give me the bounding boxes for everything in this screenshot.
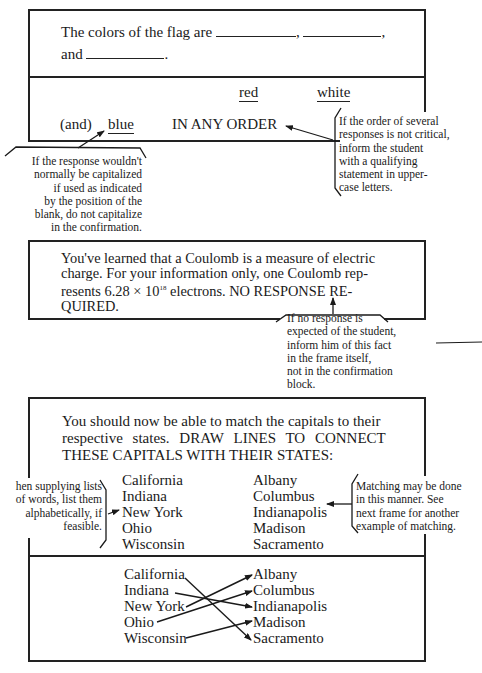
note-no-response: If no response is expected of the studen…: [287, 312, 422, 392]
answer-state-item: Indiana: [124, 582, 187, 598]
answer-capitals-list: Albany Columbus Indianapolis Madison Sac…: [253, 566, 327, 646]
note-capitalization: If the response wouldn't normally be cap…: [6, 155, 142, 235]
answer-capital-item: Columbus: [253, 582, 327, 598]
states-list: California Indiana New York Ohio Wiscons…: [122, 472, 185, 552]
qualifier-in-any-order: IN ANY ORDER: [172, 116, 277, 133]
answer-state-item: Wisconsin: [124, 630, 187, 646]
capital-item: Sacramento: [253, 536, 327, 552]
answer-blank-2[interactable]: [303, 35, 381, 37]
capitals-list: Albany Columbus Indianapolis Madison Sac…: [253, 472, 327, 552]
state-item: California: [122, 472, 185, 488]
capital-item: Columbus: [253, 488, 327, 504]
answer-red: red: [239, 84, 258, 101]
frame3-text: You should now be able to match the capi…: [62, 413, 394, 464]
state-item: Indiana: [122, 488, 185, 504]
answer-capital-item: Albany: [253, 566, 327, 582]
answer-blue: blue: [108, 116, 134, 133]
frame1-question-line2: and .: [61, 46, 168, 63]
capital-item: Albany: [253, 472, 327, 488]
answer-capital-item: Indianapolis: [253, 598, 327, 614]
state-item: Ohio: [122, 520, 185, 536]
answer-states-list: California Indiana New York Ohio Wiscons…: [124, 566, 187, 646]
capital-item: Indianapolis: [253, 504, 327, 520]
answer-and-prefix: (and): [60, 116, 92, 133]
answer-capital-item: Sacramento: [253, 630, 327, 646]
answer-state-item: California: [124, 566, 187, 582]
state-item: Wisconsin: [122, 536, 185, 552]
capital-item: Madison: [253, 520, 327, 536]
frame1-divider: [28, 76, 426, 78]
note-alphabetical: hen supplying lists of words, list them …: [0, 480, 102, 533]
question-text: The colors of the flag are: [61, 24, 212, 40]
answer-blank-3[interactable]: [86, 57, 164, 59]
state-item: New York: [122, 504, 185, 520]
frame2-text: You've learned that a Coulomb is a measu…: [61, 251, 393, 314]
answer-white: white: [317, 84, 350, 101]
frame1-question-line1: The colors of the flag are , ,: [61, 24, 385, 41]
answer-state-item: Ohio: [124, 614, 187, 630]
answer-blank-1[interactable]: [216, 35, 296, 37]
answer-capital-item: Madison: [253, 614, 327, 630]
note-order: If the order of several responses is not…: [339, 115, 481, 195]
pointer-line-icon: [436, 342, 482, 343]
answer-state-item: New York: [124, 598, 187, 614]
note-matching: Matching may be done in this manner. See…: [356, 480, 482, 533]
frame3-divider: [28, 555, 426, 557]
